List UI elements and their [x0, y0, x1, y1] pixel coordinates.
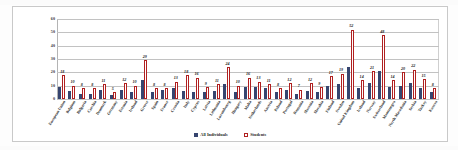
- bar-students: [248, 78, 251, 99]
- bar-value-label: 18: [184, 70, 188, 74]
- bar-value-label: 22: [411, 64, 415, 68]
- bar-group: 11: [264, 19, 274, 99]
- bar-group: 13: [171, 19, 181, 99]
- y-tick-label: 50: [33, 30, 55, 34]
- bar-students: [155, 88, 158, 99]
- bar-value-label: 9: [205, 82, 207, 86]
- scan-edge-bottom: [0, 146, 458, 150]
- bar-all-individuals: [295, 94, 298, 99]
- bar-group: 8: [151, 19, 161, 99]
- bar-all-individuals: [141, 80, 144, 99]
- bar-all-individuals: [58, 87, 61, 99]
- bar-value-label: 16: [246, 72, 250, 76]
- bar-all-individuals: [399, 86, 402, 99]
- bar-value-label: 52: [349, 24, 353, 28]
- x-tick-label: Turkey: [418, 100, 428, 113]
- x-tick-label: Romania: [292, 100, 304, 115]
- bar-value-label: 16: [194, 72, 198, 76]
- bar-value-label: 18: [60, 70, 64, 74]
- bar-group: 16: [243, 19, 253, 99]
- bar-group: 18: [181, 19, 191, 99]
- bar-all-individuals: [378, 71, 381, 99]
- bar-group: 14: [357, 19, 367, 99]
- x-tick-label: Croatia: [170, 100, 180, 113]
- bar-all-individuals: [347, 67, 350, 99]
- legend-item[interactable]: Students: [244, 133, 267, 137]
- bar-students: [413, 70, 416, 99]
- bar-all-individuals: [275, 92, 278, 99]
- bar-group: 17: [326, 19, 336, 99]
- bar-group: 52: [347, 19, 357, 99]
- bar-students: [227, 67, 230, 99]
- bar-value-label: 20: [401, 67, 405, 71]
- x-tick-label: European Union: [48, 100, 66, 126]
- bar-value-label: 21: [370, 66, 374, 70]
- bar-group: 12: [285, 19, 295, 99]
- x-tick-label: Slovakia: [313, 100, 324, 115]
- bar-all-individuals: [203, 92, 206, 99]
- screenshot-root: 0102030405060 18108811512102988131816911…: [0, 0, 458, 150]
- bar-all-individuals: [110, 95, 113, 99]
- bar-all-individuals: [99, 90, 102, 99]
- bar-all-individuals: [151, 92, 154, 99]
- bar-value-label: 8: [163, 83, 165, 87]
- bar-value-label: 14: [391, 75, 395, 79]
- bar-students: [72, 86, 75, 99]
- bar-value-label: 19: [339, 68, 343, 72]
- legend-swatch-icon: [194, 133, 198, 137]
- bar-students: [382, 35, 385, 99]
- bar-group: 20: [398, 19, 408, 99]
- bar-group: 10: [130, 19, 140, 99]
- bar-group: 12: [305, 19, 315, 99]
- bar-value-label: 7: [298, 84, 300, 88]
- x-tick-label: Finland: [324, 100, 334, 113]
- bar-all-individuals: [161, 90, 164, 99]
- x-tick-label: Bulgaria: [76, 100, 87, 115]
- bar-students: [320, 87, 323, 99]
- bar-students: [144, 60, 147, 99]
- legend-item[interactable]: All Individuals: [194, 133, 228, 137]
- bar-students: [299, 90, 302, 99]
- bar-all-individuals: [244, 87, 247, 99]
- bar-group: 16: [192, 19, 202, 99]
- bar-students: [351, 30, 354, 99]
- y-tick-label: 30: [33, 57, 55, 61]
- bar-value-label: 12: [122, 78, 126, 82]
- bar-group: 8: [274, 19, 284, 99]
- bar-group: 29: [140, 19, 150, 99]
- x-tick-label: Ireland: [129, 100, 139, 113]
- bar-value-label: 12: [308, 78, 312, 82]
- bar-all-individuals: [234, 92, 237, 99]
- x-tick-label: Hungary: [230, 100, 242, 115]
- bar-all-individuals: [254, 87, 257, 99]
- legend-label: All Individuals: [200, 133, 227, 137]
- bar-value-label: 10: [132, 80, 136, 84]
- bar-students: [175, 82, 178, 99]
- bar-value-label: 8: [153, 83, 155, 87]
- bar-students: [124, 83, 127, 99]
- bar-group: 11: [212, 19, 222, 99]
- x-tick-label: Estonia: [118, 100, 128, 113]
- bar-group: 48: [378, 19, 388, 99]
- y-tick-label: 0: [33, 97, 55, 101]
- y-tick-label: 20: [33, 70, 55, 74]
- bar-students: [82, 88, 85, 99]
- bar-students: [279, 88, 282, 99]
- scan-edge-top: [0, 0, 458, 5]
- bar-all-individuals: [419, 88, 422, 99]
- bar-group: 10: [233, 19, 243, 99]
- bar-students: [433, 88, 436, 99]
- bar-group: 18: [58, 19, 68, 99]
- bar-value-label: 8: [432, 83, 434, 87]
- x-tick-label: Greece: [139, 100, 149, 112]
- bar-value-label: 24: [225, 62, 229, 66]
- bar-group: 19: [336, 19, 346, 99]
- bar-group: 10: [68, 19, 78, 99]
- bar-group: 9: [316, 19, 326, 99]
- bar-students: [165, 88, 168, 99]
- bar-group: 9: [202, 19, 212, 99]
- bar-students: [237, 86, 240, 99]
- bar-group: 22: [409, 19, 419, 99]
- x-tick-label: Kosovo: [428, 100, 438, 113]
- bar-value-label: 12: [287, 78, 291, 82]
